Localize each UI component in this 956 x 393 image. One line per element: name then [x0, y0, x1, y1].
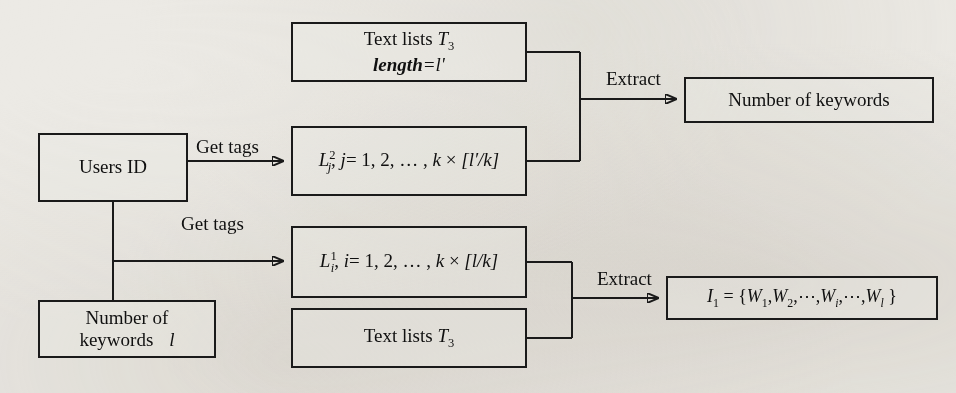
node-text-lists-t3-top[interactable]: Text lists T3 length=l' [291, 22, 527, 82]
i1-Wl: W [865, 286, 880, 306]
i1-dots-1: ⋯ [798, 286, 816, 306]
edge-label-extract-bottom: Extract [597, 268, 652, 290]
l2-comma: , [331, 149, 341, 170]
node-number-of-keywords-input[interactable]: Number of keywordsl [38, 300, 216, 358]
node-number-of-keywords-input-line1: Number of [86, 307, 169, 329]
keywords-symbol: l [169, 329, 174, 350]
diagram-canvas: Users ID Number of keywordsl Text lists … [0, 0, 956, 393]
node-text-lists-t3-bottom-label: Text lists T3 [364, 325, 454, 351]
l1-L: L [320, 250, 331, 271]
node-number-of-keywords-output[interactable]: Number of keywords [684, 77, 934, 123]
i1-W1: W [747, 286, 762, 306]
node-text-lists-t3-top-line2: length=l' [373, 54, 445, 76]
l2-times-sign: × [446, 149, 457, 170]
edge-label-get-tags-top: Get tags [196, 136, 259, 158]
i1-close-brace: } [888, 286, 897, 306]
length-word: length [373, 54, 423, 75]
i1-Wi: W [820, 286, 835, 306]
node-text-lists-t3-top-line1: Text lists T3 [364, 28, 454, 54]
l1-sequence: = 1, 2, … , [349, 250, 436, 271]
l2-k: k [433, 149, 441, 170]
l1-k: k [436, 250, 444, 271]
edge-label-get-tags-bottom: Get tags [181, 213, 244, 235]
keywords-word: keywords [79, 329, 153, 350]
i1-open-brace: { [738, 286, 747, 306]
node-l2-j-set[interactable]: L2j, j= 1, 2, … , k × [l′/k] [291, 126, 527, 196]
t-subscript-bottom: 3 [448, 336, 454, 350]
node-text-lists-t3-bottom[interactable]: Text lists T3 [291, 308, 527, 368]
node-i1-word-set-label: I1 = {W1,W2,⋯,Wi,⋯,Wl } [707, 286, 897, 310]
node-users-id[interactable]: Users ID [38, 133, 188, 202]
node-i1-word-set[interactable]: I1 = {W1,W2,⋯,Wi,⋯,Wl } [666, 276, 938, 320]
i1-eq: = [724, 286, 734, 306]
l1-times-sign: × [449, 250, 460, 271]
t-subscript: 3 [448, 39, 454, 53]
l2-bracket: [l′/k] [461, 149, 499, 170]
l2-sequence: = 1, 2, … , [346, 149, 433, 170]
edge-label-extract-top: Extract [606, 68, 661, 90]
text-lists-bottom-prefix: Text lists [364, 325, 438, 346]
t-symbol-bottom: T [437, 325, 448, 346]
t-symbol: T [437, 28, 448, 49]
node-l1-i-set-label: L1i, i= 1, 2, … , k × [l/k] [320, 249, 498, 276]
length-symbol: l' [436, 54, 445, 75]
length-eq: = [423, 54, 436, 75]
node-l1-i-set[interactable]: L1i, i= 1, 2, … , k × [l/k] [291, 226, 527, 298]
node-l2-j-set-label: L2j, j= 1, 2, … , k × [l′/k] [319, 148, 499, 175]
text-lists-prefix: Text lists [364, 28, 438, 49]
i1-W2: W [772, 286, 787, 306]
i1-dots-2: ⋯ [843, 286, 861, 306]
l1-bracket: [l/k] [464, 250, 498, 271]
node-number-of-keywords-input-line2: keywordsl [79, 329, 174, 351]
l1-comma: , [334, 250, 344, 271]
node-number-of-keywords-output-label: Number of keywords [728, 89, 889, 111]
node-users-id-label: Users ID [79, 156, 147, 178]
